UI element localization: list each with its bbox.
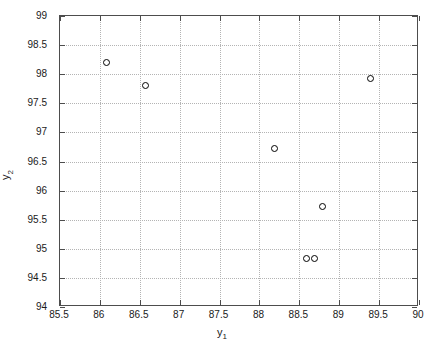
y-axis-tick-label: 94 (0, 301, 54, 312)
scatter-plot-figure: 85.58686.58787.58888.58989.590 9494.5959… (0, 0, 444, 349)
y-axis-tick (412, 16, 417, 17)
x-axis-tick (259, 300, 260, 305)
x-axis-tick (220, 16, 221, 21)
gridline-vertical (220, 16, 221, 305)
x-axis-tick (60, 300, 61, 305)
y-axis-tick-label: 95 (0, 242, 54, 253)
x-axis-tick (419, 300, 420, 305)
gridline-horizontal (60, 220, 417, 221)
y-axis-tick (60, 132, 65, 133)
x-axis-label: y1 (0, 326, 444, 341)
data-point-marker (303, 255, 310, 262)
y-axis-tick (60, 191, 65, 192)
gridline-vertical (140, 16, 141, 305)
x-axis-tick (100, 16, 101, 21)
x-axis-tick-label: 88.5 (289, 309, 308, 320)
y-axis-tick-label: 96 (0, 184, 54, 195)
gridline-vertical (379, 16, 380, 305)
y-axis-label-base: y (0, 174, 11, 180)
x-axis-tick (379, 300, 380, 305)
gridline-horizontal (60, 74, 417, 75)
x-axis-tick (100, 300, 101, 305)
gridline-horizontal (60, 278, 417, 279)
gridline-horizontal (60, 162, 417, 163)
y-axis-tick (60, 45, 65, 46)
y-axis-tick (60, 103, 65, 104)
gridline-vertical (100, 16, 101, 305)
y-axis-tick (412, 74, 417, 75)
x-axis-tick-label: 90 (412, 309, 423, 320)
y-axis-tick (412, 307, 417, 308)
data-point-marker (142, 82, 149, 89)
y-axis-tick (60, 74, 65, 75)
x-axis-tick (140, 16, 141, 21)
y-axis-tick (60, 162, 65, 163)
y-axis-tick (60, 278, 65, 279)
x-axis-tick (379, 16, 380, 21)
y-axis-tick-label: 95.5 (0, 213, 54, 224)
y-axis-tick-label: 97 (0, 126, 54, 137)
y-axis-tick (412, 103, 417, 104)
gridline-horizontal (60, 132, 417, 133)
y-axis-tick (60, 220, 65, 221)
gridline-horizontal (60, 249, 417, 250)
gridline-horizontal (60, 103, 417, 104)
x-axis-tick-label: 89 (333, 309, 344, 320)
y-axis-tick-label: 97.5 (0, 97, 54, 108)
y-axis-tick (412, 191, 417, 192)
x-axis-tick (180, 16, 181, 21)
x-axis-tick-label: 87.5 (209, 309, 228, 320)
y-axis-label-subscript: 2 (6, 170, 15, 174)
y-axis-tick (412, 278, 417, 279)
x-axis-tick (419, 16, 420, 21)
plot-area (59, 15, 418, 306)
x-axis-tick-label: 86.5 (129, 309, 148, 320)
x-axis-tick (180, 300, 181, 305)
gridline-horizontal (60, 191, 417, 192)
x-axis-tick-label: 88 (253, 309, 264, 320)
gridline-horizontal (60, 45, 417, 46)
data-point-marker (319, 203, 326, 210)
x-axis-tick (339, 300, 340, 305)
x-axis-tick-label: 86 (93, 309, 104, 320)
y-axis-tick-label: 96.5 (0, 155, 54, 166)
x-axis-tick (220, 300, 221, 305)
y-axis-label: y2 (0, 170, 15, 180)
x-axis-tick (339, 16, 340, 21)
y-axis-tick-label: 94.5 (0, 271, 54, 282)
x-axis-tick (140, 300, 141, 305)
y-axis-tick (60, 307, 65, 308)
y-axis-tick (60, 16, 65, 17)
y-axis-tick (412, 45, 417, 46)
gridline-vertical (299, 16, 300, 305)
y-axis-tick (412, 220, 417, 221)
y-axis-tick-label: 98.5 (0, 39, 54, 50)
x-axis-tick (299, 300, 300, 305)
gridline-vertical (339, 16, 340, 305)
y-axis-tick (412, 162, 417, 163)
x-axis-tick (259, 16, 260, 21)
x-axis-tick (299, 16, 300, 21)
y-axis-tick (412, 132, 417, 133)
y-axis-tick-label: 99 (0, 10, 54, 21)
x-axis-tick-label: 87 (173, 309, 184, 320)
x-axis-label-subscript: 1 (223, 332, 227, 341)
data-point-marker (103, 59, 110, 66)
y-axis-tick-label: 98 (0, 68, 54, 79)
data-point-marker (271, 145, 278, 152)
y-axis-tick (60, 249, 65, 250)
data-point-marker (311, 255, 318, 262)
gridline-vertical (180, 16, 181, 305)
y-axis-tick (412, 249, 417, 250)
data-point-marker (367, 75, 374, 82)
x-axis-tick-label: 89.5 (368, 309, 387, 320)
gridline-vertical (259, 16, 260, 305)
